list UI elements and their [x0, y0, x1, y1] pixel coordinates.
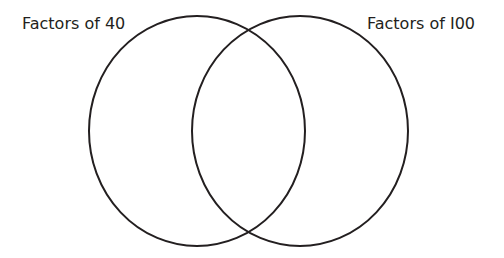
circle-factors-of-40 [89, 16, 305, 246]
venn-diagram [0, 0, 504, 258]
circle-factors-of-100 [192, 16, 408, 246]
